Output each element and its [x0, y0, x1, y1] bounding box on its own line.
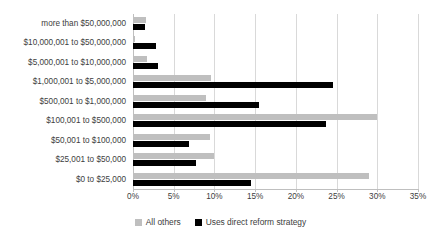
bar-direct-reform — [133, 160, 196, 166]
bar-all-others — [133, 173, 369, 179]
bars-container — [133, 14, 418, 189]
bar-all-others — [133, 95, 206, 101]
bar-direct-reform — [133, 102, 259, 108]
category-label: $5,000,001 to $10,000,000 — [0, 53, 129, 72]
x-tick-mark — [337, 189, 338, 192]
category-label: $1,000,001 to $5,000,000 — [0, 72, 129, 91]
bar-group — [133, 92, 418, 111]
x-tick-mark — [255, 189, 256, 192]
category-label: $100,001 to $500,000 — [0, 111, 129, 130]
category-label: more than $50,000,000 — [0, 14, 129, 33]
x-tick-label: 10% — [206, 192, 222, 201]
legend-item[interactable]: Uses direct reform strategy — [195, 217, 307, 227]
bar-direct-reform — [133, 43, 156, 49]
x-tick-label: 20% — [288, 192, 304, 201]
bar-group — [133, 170, 418, 189]
bar-all-others — [133, 56, 147, 62]
category-label: $500,001 to $1,000,000 — [0, 92, 129, 111]
legend-label: All others — [146, 217, 181, 227]
bar-direct-reform — [133, 180, 251, 186]
bar-direct-reform — [133, 141, 189, 147]
bar-group — [133, 150, 418, 169]
category-label: $0 to $25,000 — [0, 170, 129, 189]
category-axis-labels: more than $50,000,000$10,000,001 to $50,… — [0, 14, 129, 189]
bar-all-others — [133, 153, 214, 159]
bar-all-others — [133, 17, 146, 23]
bar-group — [133, 53, 418, 72]
x-tick-label: 35% — [410, 192, 426, 201]
x-tick-mark — [296, 189, 297, 192]
bar-group — [133, 111, 418, 130]
x-tick-mark — [418, 189, 419, 192]
x-tick-label: 5% — [168, 192, 180, 201]
x-tick-mark — [174, 189, 175, 192]
bar-group — [133, 33, 418, 52]
bar-direct-reform — [133, 63, 158, 69]
category-label: $50,001 to $100,000 — [0, 131, 129, 150]
bar-chart: more than $50,000,000$10,000,001 to $50,… — [0, 0, 441, 240]
x-tick-mark — [214, 189, 215, 192]
legend-item[interactable]: All others — [135, 217, 181, 227]
chart-legend: All othersUses direct reform strategy — [0, 214, 441, 230]
bar-direct-reform — [133, 24, 145, 30]
legend-swatch-icon — [135, 219, 142, 226]
x-tick-label: 25% — [328, 192, 344, 201]
bar-group — [133, 14, 418, 33]
legend-swatch-icon — [195, 219, 202, 226]
x-tick-label: 15% — [247, 192, 263, 201]
x-axis-line — [133, 189, 418, 190]
category-label: $10,000,001 to $50,000,000 — [0, 33, 129, 52]
x-tick-label: 0% — [127, 192, 139, 201]
category-label: $25,001 to $50,000 — [0, 150, 129, 169]
x-axis-tick-labels: 0%5%10%15%20%25%30%35% — [133, 192, 418, 206]
bar-group — [133, 131, 418, 150]
x-tick-label: 30% — [369, 192, 385, 201]
x-tick-mark — [133, 189, 134, 192]
legend-label: Uses direct reform strategy — [206, 217, 307, 227]
bar-all-others — [133, 114, 377, 120]
bar-direct-reform — [133, 82, 333, 88]
bar-group — [133, 72, 418, 91]
gridline-35pct — [418, 14, 419, 189]
bar-all-others — [133, 134, 210, 140]
x-tick-mark — [377, 189, 378, 192]
bar-all-others — [133, 75, 211, 81]
bar-all-others — [133, 36, 135, 42]
bar-direct-reform — [133, 121, 326, 127]
